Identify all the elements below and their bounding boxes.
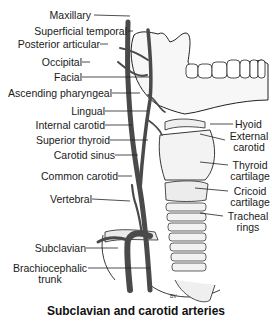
label-cricoid-cartilage: Cricoid cartilage (228, 186, 272, 208)
label-ascending-pharyngeal: Ascending pharyngeal (8, 88, 112, 99)
illustrator-signature: BV (170, 293, 177, 299)
label-vertebral: Vertebral (50, 194, 92, 205)
label-carotid-sinus: Carotid sinus (54, 150, 115, 161)
sternum-outline (175, 280, 215, 302)
label-posterior-articular: Posterior articular (18, 39, 100, 50)
label-lingual: Lingual (71, 106, 105, 117)
label-external-carotid: External carotid (226, 131, 272, 153)
label-thyroid-cartilage: Thyroid cartilage (228, 160, 272, 182)
label-subclavian: Subclavian (35, 243, 86, 254)
thyroid-cartilage-shape (159, 130, 214, 180)
teeth (186, 60, 265, 78)
label-occipital: Occipital (42, 57, 82, 68)
label-superior-thyroid: Superior thyroid (36, 135, 110, 146)
label-common-carotid: Common carotid (41, 171, 118, 182)
label-facial: Facial (54, 72, 82, 83)
label-superficial-temporal: Superficial temporal (34, 26, 127, 37)
cricoid-shape (165, 181, 208, 202)
label-tracheal-rings: Tracheal rings (224, 211, 272, 233)
label-brachiocephalic-trunk: Brachiocephalic trunk (10, 263, 90, 285)
label-hyoid: Hyoid (235, 119, 262, 130)
hyoid-bone (165, 119, 205, 130)
label-internal-carotid: Internal carotid (36, 120, 105, 131)
label-maxillary: Maxillary (50, 10, 91, 21)
figure-caption: Subclavian and carotid arteries (0, 304, 272, 318)
